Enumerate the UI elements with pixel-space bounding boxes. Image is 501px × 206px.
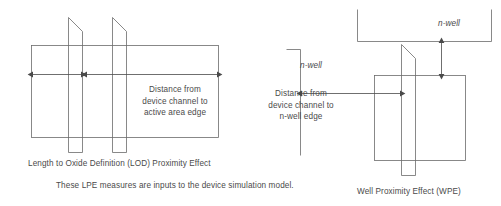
lod-annotation: Distance from device channel to active a… [137,84,213,119]
wpe-active-area-rect [375,76,466,161]
nwell-label-top: n-well [438,18,460,30]
diagram-stage: Distance from device channel to active a… [0,0,501,206]
gate-strip-1 [69,18,83,153]
wpe-annotation-line2: device channel to [268,101,333,110]
wpe-annotation: Distance from device channel to n-well e… [261,88,341,123]
lod-caption: Length to Oxide Definition (LOD) Proximi… [28,159,211,168]
nwell-label-left: n-well [300,60,322,72]
gate-strip-2 [113,18,127,153]
wpe-gate-strip [402,45,416,176]
nwell-boundary-top [358,10,492,42]
wpe-dimension-arrows [302,43,442,94]
proximity-effect-figure [0,0,501,206]
wpe-caption: Well Proximity Effect (WPE) [357,187,461,196]
wpe-annotation-line1: Distance from [275,89,327,98]
footnote-text: These LPE measures are inputs to the dev… [56,181,294,190]
wpe-annotation-line3: n-well edge [280,112,323,121]
lod-annotation-line2: device channel to [142,97,207,106]
lod-annotation-line3: active area edge [144,108,206,117]
lod-annotation-line1: Distance from [149,85,201,94]
